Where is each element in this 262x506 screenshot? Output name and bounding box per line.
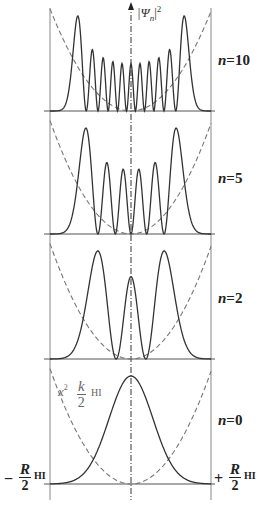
left-bound-fraction: R 2 [19, 462, 31, 493]
panel-label-n10: nn=10=10 [218, 52, 250, 69]
right-bound-sign: + [214, 470, 223, 488]
left-bound-sign: − [4, 470, 13, 488]
panel-label-n2: n=2 [218, 290, 242, 307]
right-bound-fraction: R 2 [229, 462, 241, 493]
left-bound-sub: HI [34, 470, 46, 481]
panel-label-n0: n=0 [218, 412, 242, 429]
right-bound-sub: HI [244, 470, 256, 481]
panel-label-n5: n=5 [218, 170, 242, 187]
potential-label: x2 [58, 382, 68, 400]
oscillator-figure [0, 0, 262, 506]
potential-sub: HI [91, 387, 102, 398]
potential-fraction: k 2 [77, 379, 86, 410]
y-axis-label: |Ψn|2 [137, 4, 161, 23]
axis-arrow-icon [128, 2, 134, 10]
